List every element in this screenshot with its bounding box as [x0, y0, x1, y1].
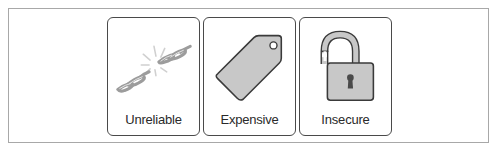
open-padlock-icon — [300, 18, 391, 110]
card-label: Expensive — [204, 112, 295, 127]
price-tag-icon — [204, 18, 295, 110]
card-label: Insecure — [300, 112, 391, 127]
card-insecure: Insecure — [299, 17, 392, 136]
card-label: Unreliable — [108, 112, 199, 127]
card-unreliable: Unreliable — [107, 17, 200, 136]
broken-chain-icon — [108, 18, 199, 110]
card-expensive: Expensive — [203, 17, 296, 136]
